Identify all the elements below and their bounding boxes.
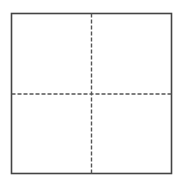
quadrant-diagram xyxy=(0,0,185,185)
